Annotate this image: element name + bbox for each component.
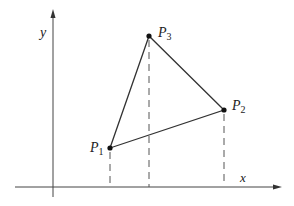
vertex-p2: P2 — [221, 98, 245, 115]
label-p1: P1 — [89, 140, 104, 157]
point-p3-icon — [146, 33, 151, 38]
projection-lines — [110, 40, 224, 187]
point-p1-icon — [107, 145, 112, 150]
y-axis-label: y — [38, 25, 47, 40]
triangle — [110, 36, 224, 148]
vertex-p3: P3 — [146, 25, 171, 42]
x-axis-label: x — [239, 170, 246, 185]
label-p2: P2 — [231, 98, 246, 115]
point-p2-icon — [221, 107, 226, 112]
y-axis-arrowhead-icon — [51, 9, 56, 18]
label-p3: P3 — [157, 25, 172, 42]
vertex-p1: P1 — [89, 140, 113, 157]
x-axis-arrowhead-icon — [273, 185, 282, 190]
triangle-diagram: x y P1 P2 P3 — [0, 0, 294, 206]
